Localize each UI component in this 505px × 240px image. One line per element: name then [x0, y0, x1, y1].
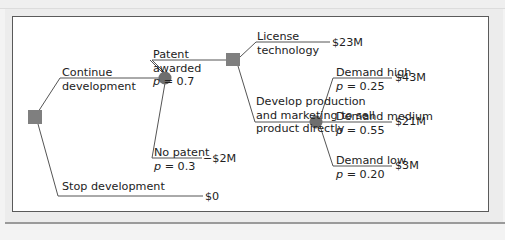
demand-low-payoff: $3M	[395, 159, 419, 172]
no-patent-payoff: −$2M	[203, 152, 236, 165]
demand-medium-payoff: $21M	[395, 115, 426, 128]
stop-payoff: $0	[205, 190, 219, 203]
license-payoff: $23M	[332, 36, 363, 49]
patent-awarded-label: Patent awarded p = 0.7	[153, 48, 201, 89]
stop-label: Stop development	[62, 180, 165, 194]
root-decision-node	[28, 110, 42, 124]
license-label: License technology	[257, 30, 319, 57]
continue-label: Continue development	[62, 66, 136, 93]
license-decision-node	[226, 53, 240, 66]
demand-high-payoff: $43M	[395, 71, 426, 84]
no-patent-label: No patent p = 0.3	[154, 146, 209, 173]
